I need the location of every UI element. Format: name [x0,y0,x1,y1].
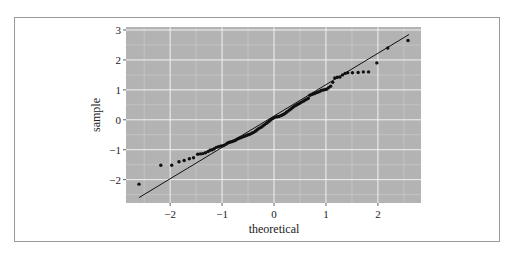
y-tick-label: 3 [116,24,122,36]
y-tick-label: 2 [116,54,122,66]
x-axis-ticks: −2−1012 [164,203,380,220]
data-point [137,182,140,185]
y-axis-ticks: −2−10123 [109,24,126,186]
x-tick-label: 0 [271,208,277,220]
data-point [356,71,359,74]
data-point [331,81,334,84]
data-point [182,159,185,162]
y-tick-label: −2 [109,174,121,186]
data-point [386,46,389,49]
x-tick-label: 2 [375,208,381,220]
qq-plot: −2−1012 −2−10123 theoretical sample [0,0,515,257]
data-point [170,164,173,167]
data-point [346,71,349,74]
data-point [406,39,409,42]
data-point [307,97,310,100]
x-tick-label: −2 [164,208,176,220]
data-point [192,156,195,159]
y-tick-label: 1 [116,84,122,96]
data-point [362,70,365,73]
y-tick-label: 0 [116,114,122,126]
data-point [375,61,378,64]
data-point [329,85,332,88]
data-point [177,160,180,163]
x-tick-label: −1 [216,208,228,220]
x-tick-label: 1 [323,208,329,220]
data-point [367,70,370,73]
data-point [159,164,162,167]
data-point [351,71,354,74]
y-tick-label: −1 [109,144,121,156]
data-point [188,157,191,160]
x-axis-title: theoretical [249,222,300,236]
y-axis-title: sample [89,98,103,132]
